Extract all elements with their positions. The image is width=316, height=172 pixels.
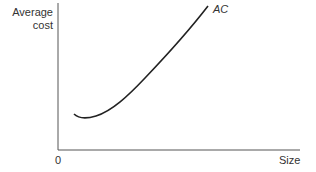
y-axis-label: Average cost (12, 6, 53, 32)
origin-label: 0 (55, 154, 61, 166)
ac-curve (74, 6, 208, 118)
curve-label-ac: AC (213, 3, 228, 15)
y-axis-label-line1: Average (12, 6, 53, 19)
y-axis-label-line2: cost (12, 19, 53, 32)
x-axis-label: Size (279, 154, 300, 166)
